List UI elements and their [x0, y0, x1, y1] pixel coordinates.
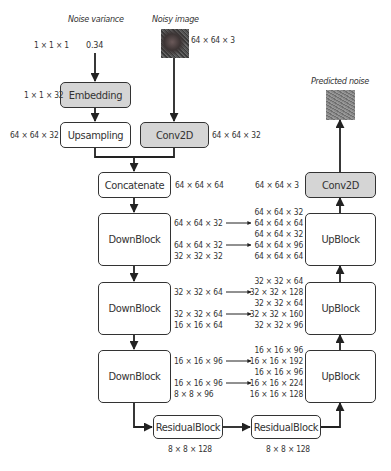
upblock-3-shapes: 16 × 16 × 96 16 × 16 × 192 16 × 16 × 96 … — [250, 345, 303, 400]
downblock-3-output: 8 × 8 × 96 — [174, 389, 213, 400]
conv2d-output-shape: 64 × 64 × 3 — [255, 180, 299, 191]
downblock-1-label: DownBlock — [108, 233, 160, 246]
concatenate-shape: 64 × 64 × 64 — [175, 180, 224, 191]
noise-variance-shape: 1 × 1 × 1 — [34, 40, 69, 51]
upblock-2-shape-2: 32 × 32 × 128 — [250, 287, 303, 298]
upblock-1-shape-3: 64 × 64 × 32 — [254, 229, 303, 240]
noise-variance-title: Noise variance — [68, 14, 124, 24]
upblock-1-shapes: 64 × 64 × 32 64 × 64 × 64 64 × 64 × 32 6… — [254, 207, 303, 262]
noisy-image-thumbnail — [161, 29, 189, 58]
downblock-2-skip-1: 32 × 32 × 64 — [174, 287, 223, 298]
downblock-2-label: DownBlock — [108, 302, 160, 315]
upblock-3: UpBlock — [305, 350, 376, 403]
residual-block-1: ResidualBlock — [153, 415, 223, 439]
downblock-2: DownBlock — [98, 282, 171, 335]
conv2d-input-label: Conv2D — [156, 129, 193, 142]
conv2d-output-block: Conv2D — [305, 172, 376, 198]
upblock-2-label: UpBlock — [321, 302, 359, 315]
downblock-1-skip-1: 64 × 64 × 32 — [174, 218, 223, 229]
upblock-2-shape-5: 32 × 32 × 96 — [250, 320, 303, 331]
predicted-noise-title: Predicted noise — [311, 76, 369, 86]
downblock-2-skip-2: 32 × 32 × 64 — [174, 309, 223, 320]
upblock-3-shape-4: 16 × 16 × 224 — [250, 378, 303, 389]
concatenate-label: Concatenate — [105, 179, 165, 192]
residual-block-2-shape: 8 × 8 × 128 — [266, 444, 310, 455]
upblock-3-shape-5: 16 × 16 × 128 — [250, 389, 303, 400]
unet-diffusion-diagram: Noise variance Noisy image 1 × 1 × 1 0.3… — [0, 0, 391, 471]
conv2d-input-shape: 64 × 64 × 32 — [212, 130, 261, 141]
downblock-3: DownBlock — [98, 350, 171, 403]
upblock-2-shape-4: 32 × 32 × 160 — [250, 309, 303, 320]
downblock-1-output: 32 × 32 × 32 — [174, 251, 223, 262]
noisy-image-title: Noisy image — [152, 14, 199, 24]
conv2d-output-label: Conv2D — [322, 179, 359, 192]
conv2d-input-block: Conv2D — [140, 122, 209, 148]
downblock-3-label: DownBlock — [108, 370, 160, 383]
upblock-1-shape-5: 64 × 64 × 64 — [254, 251, 303, 262]
upblock-1-shape-1: 64 × 64 × 32 — [254, 207, 303, 218]
upblock-3-shape-3: 16 × 16 × 96 — [250, 367, 303, 378]
upblock-1: UpBlock — [305, 213, 376, 266]
upblock-2-shape-3: 32 × 32 × 64 — [250, 298, 303, 309]
upblock-3-label: UpBlock — [321, 370, 359, 383]
upblock-3-shape-1: 16 × 16 × 96 — [250, 345, 303, 356]
upblock-1-shape-4: 64 × 64 × 96 — [254, 240, 303, 251]
embedding-label: Embedding — [69, 89, 122, 102]
residual-block-1-shape: 8 × 8 × 128 — [168, 444, 212, 455]
noisy-image-shape: 64 × 64 × 3 — [191, 35, 235, 46]
predicted-noise-thumbnail — [326, 90, 355, 120]
noise-variance-value: 0.34 — [86, 40, 103, 51]
upsampling-block: Upsampling — [60, 122, 131, 148]
upblock-1-shape-2: 64 × 64 × 64 — [254, 218, 303, 229]
downblock-3-skip-1: 16 × 16 × 96 — [174, 356, 223, 367]
upsampling-label: Upsampling — [68, 129, 124, 142]
downblock-1-skip-2: 64 × 64 × 32 — [174, 240, 223, 251]
downblock-2-output: 16 × 16 × 64 — [174, 320, 223, 331]
embedding-shape: 1 × 1 × 32 — [24, 90, 63, 101]
upblock-1-label: UpBlock — [321, 233, 359, 246]
upblock-3-shape-2: 16 × 16 × 192 — [250, 356, 303, 367]
upblock-2-shapes: 32 × 32 × 64 32 × 32 × 128 32 × 32 × 64 … — [250, 276, 303, 331]
upblock-2: UpBlock — [305, 282, 376, 335]
residual-block-2: ResidualBlock — [251, 415, 321, 439]
downblock-3-skip-2: 16 × 16 × 96 — [174, 378, 223, 389]
concatenate-block: Concatenate — [98, 172, 171, 198]
upblock-2-shape-1: 32 × 32 × 64 — [250, 276, 303, 287]
upsampling-shape: 64 × 64 × 32 — [10, 130, 59, 141]
residual-block-1-label: ResidualBlock — [156, 421, 221, 434]
downblock-1: DownBlock — [98, 213, 171, 266]
residual-block-2-label: ResidualBlock — [254, 421, 319, 434]
embedding-block: Embedding — [60, 82, 131, 108]
